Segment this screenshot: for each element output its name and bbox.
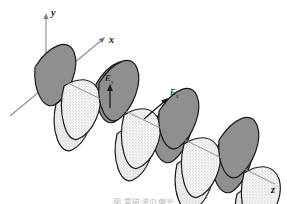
Ex-label-subscript: x <box>175 93 179 99</box>
x-axis-label: x <box>108 34 114 45</box>
lobe-light <box>122 109 161 169</box>
Ex-label: E <box>169 87 176 97</box>
Ey-label: E <box>104 73 111 83</box>
wave-Ex-lobes <box>62 61 281 204</box>
figure-root: y x z E y E x 図 電磁波の偏光 <box>0 0 287 204</box>
lobe-light <box>62 80 101 140</box>
z-axis-label: z <box>270 184 275 195</box>
em-wave-diagram: y x z E y E x <box>0 0 287 204</box>
figure-caption: 図 電磁波の偏光 <box>0 196 287 204</box>
y-axis-label: y <box>50 7 56 18</box>
Ey-label-subscript: y <box>110 79 114 85</box>
lobe-light <box>182 138 221 198</box>
